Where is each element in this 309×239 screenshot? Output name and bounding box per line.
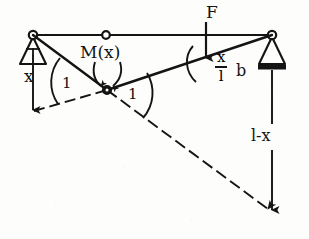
- label-force-F: F: [206, 4, 218, 21]
- beam-hinge-top: [102, 31, 110, 39]
- label-ordinate-fraction: x l: [215, 50, 227, 84]
- figure-root: F M(x) x l-x 1 1 x l b: [0, 0, 309, 239]
- label-dimension-l-minus-x: l-x: [251, 128, 271, 144]
- moment-arrow-left: [94, 62, 101, 86]
- label-moment-mx: M(x): [80, 44, 120, 61]
- roller-support-right: [258, 31, 286, 70]
- label-unit-angle-left: 1: [62, 76, 72, 91]
- label-ordinate-factor-b: b: [236, 63, 246, 79]
- fraction-numerator: x: [215, 50, 227, 65]
- moment-arrow-right: [113, 62, 121, 86]
- unit-angle-arc-right: [143, 73, 153, 118]
- reference-chord-dashed: [34, 90, 268, 209]
- beam-diagram-svg: [0, 0, 309, 239]
- center-hinge-node: [103, 86, 112, 95]
- fraction-denominator: l: [215, 69, 227, 84]
- label-unit-angle-right: 1: [128, 87, 138, 102]
- label-dimension-x: x: [24, 68, 34, 85]
- unit-angle-arc-left: [51, 58, 60, 104]
